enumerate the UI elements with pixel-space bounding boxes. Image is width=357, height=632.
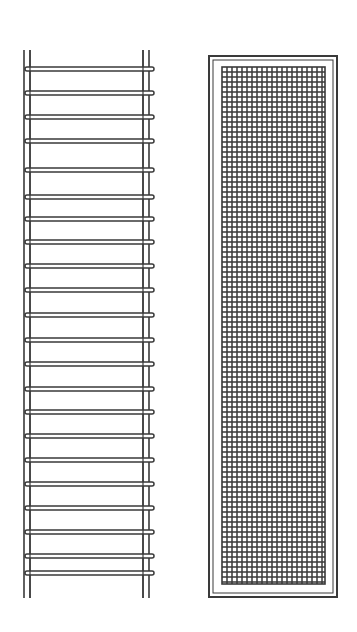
ladder-rung [25, 434, 154, 438]
ladder-rung [25, 554, 154, 558]
ladder-rung [25, 458, 154, 462]
ladder-rung [25, 91, 154, 95]
ladder-rung [25, 217, 154, 221]
ladder-rung [25, 264, 154, 268]
ladder-rung [25, 571, 154, 575]
ladder-rung [25, 410, 154, 414]
ladder-rung [25, 240, 154, 244]
ladder-rung [25, 168, 154, 172]
ladder-rung [25, 288, 154, 292]
ladder-rung [25, 313, 154, 317]
figure-canvas [0, 0, 357, 632]
ladder-rung [25, 115, 154, 119]
ladder-rung [25, 67, 154, 71]
ladder-coil-drawing [24, 50, 154, 598]
mesh-panel-drawing [209, 56, 337, 597]
ladder-rung [25, 387, 154, 391]
ladder-rung [25, 139, 154, 143]
ladder-rung [25, 482, 154, 486]
ladder-rung [25, 530, 154, 534]
ladder-rung [25, 338, 154, 342]
ladder-rung [25, 362, 154, 366]
ladder-rung [25, 506, 154, 510]
ladder-rung [25, 195, 154, 199]
